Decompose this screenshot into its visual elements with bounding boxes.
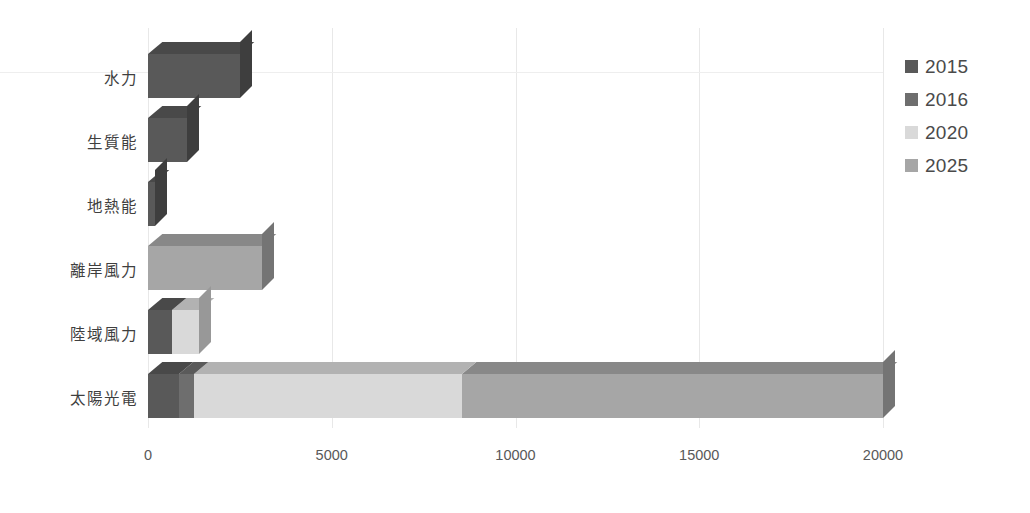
legend-swatch-icon: [905, 126, 918, 139]
legend-swatch-icon: [905, 159, 918, 172]
bar-segment-front: [148, 246, 262, 290]
bar-segment: [179, 374, 194, 418]
bar-segment: [148, 246, 262, 290]
chart-legend: 2015201620202025: [905, 50, 968, 182]
bar-segment-top: [462, 362, 897, 374]
bar-segment-front: [148, 310, 172, 354]
bar-segment: [194, 374, 462, 418]
bar-segment-front: [194, 374, 462, 418]
bar-segment-front: [148, 54, 240, 98]
legend-item[interactable]: 2025: [905, 149, 968, 182]
bar-segment-front: [148, 118, 187, 162]
x-tick-label: 10000: [495, 447, 535, 463]
bar-row: [148, 374, 883, 418]
bar-segment: [172, 310, 200, 354]
legend-swatch-icon: [905, 93, 918, 106]
category-label: 太陽光電: [0, 386, 138, 408]
bar-segment: [148, 182, 155, 226]
bar-segment-front: [462, 374, 883, 418]
bar-segment: [148, 310, 172, 354]
bar-segment-side: [155, 158, 167, 226]
bar-segment-front: [179, 374, 194, 418]
plot-area: [148, 28, 883, 428]
bar-segment-side: [240, 30, 252, 98]
category-label: 地熱能: [0, 194, 138, 216]
bar-segment-side: [187, 94, 199, 162]
bar-row: [148, 54, 883, 98]
bar-segment-top: [148, 234, 276, 246]
bar-segment-side: [199, 286, 211, 354]
legend-label: 2015: [925, 56, 968, 78]
bar-segment-side: [262, 222, 274, 290]
category-label: 陸域風力: [0, 322, 138, 344]
legend-label: 2025: [925, 155, 968, 177]
legend-item[interactable]: 2020: [905, 116, 968, 149]
legend-item[interactable]: 2015: [905, 50, 968, 83]
bar-row: [148, 310, 883, 354]
bar-segment-front: [148, 374, 179, 418]
x-tick-label: 15000: [679, 447, 719, 463]
legend-label: 2016: [925, 89, 968, 111]
bar-segment-side: [883, 350, 895, 418]
x-tick-label: 0: [144, 447, 152, 463]
x-tick-label: 20000: [863, 447, 903, 463]
renewable-energy-stacked-bar-chart: 05000100001500020000 水力生質能地熱能離岸風力陸域風力太陽光…: [0, 0, 1030, 513]
bar-row: [148, 118, 883, 162]
bar-segment-top: [148, 42, 254, 54]
bar-segment-top: [194, 362, 477, 374]
bar-segment: [148, 118, 187, 162]
bar-segment: [148, 374, 179, 418]
legend-swatch-icon: [905, 60, 918, 73]
category-label: 離岸風力: [0, 258, 138, 280]
bar-segment: [148, 54, 240, 98]
x-tick-label: 5000: [316, 447, 348, 463]
category-label: 生質能: [0, 130, 138, 152]
bar-row: [148, 182, 883, 226]
legend-label: 2020: [925, 122, 968, 144]
category-label: 水力: [0, 66, 138, 88]
bar-segment-front: [172, 310, 200, 354]
bar-row: [148, 246, 883, 290]
bar-segment: [462, 374, 883, 418]
legend-item[interactable]: 2016: [905, 83, 968, 116]
